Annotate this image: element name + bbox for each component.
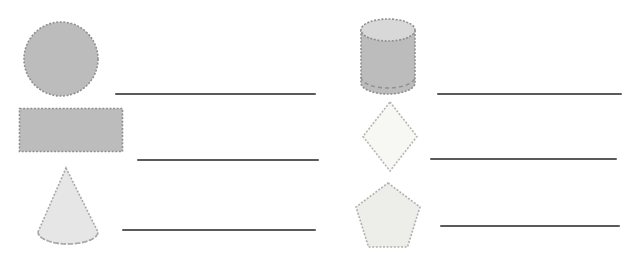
pentagon-shape-icon <box>354 181 422 250</box>
answer-line-cylinder[interactable] <box>437 93 622 95</box>
answer-line-rectangle[interactable] <box>137 159 319 161</box>
cylinder-shape-icon <box>359 17 417 96</box>
diamond-shape-icon <box>361 100 419 173</box>
shape-pentagon <box>354 181 422 250</box>
rectangle-shape-icon <box>18 107 124 153</box>
answer-line-pentagon[interactable] <box>440 225 620 227</box>
cone-shape-icon <box>36 166 108 248</box>
shape-diamond <box>361 100 419 173</box>
answer-line-circle[interactable] <box>115 93 316 95</box>
shape-cone <box>36 166 108 248</box>
shape-circle <box>21 19 101 99</box>
answer-line-cone[interactable] <box>122 229 316 231</box>
answer-line-diamond[interactable] <box>430 158 617 160</box>
worksheet-page <box>0 0 638 253</box>
shape-rectangle <box>18 107 124 153</box>
shape-cylinder <box>359 17 417 96</box>
circle-shape-icon <box>21 19 101 99</box>
